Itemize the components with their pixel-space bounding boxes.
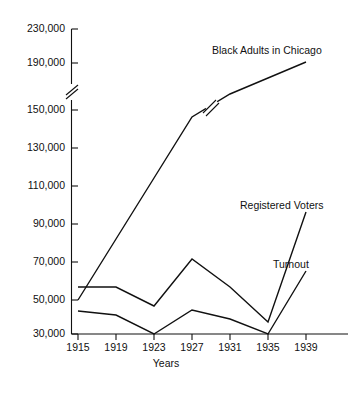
x-tick-label-1939: 1939 <box>294 341 318 353</box>
series-turnout: Turnout <box>78 258 309 334</box>
series-label-black-adults: Black Adults in Chicago <box>212 44 322 56</box>
y-tick-label-150000: 150,000 <box>27 103 65 115</box>
y-tick-label-230000: 230,000 <box>27 22 65 34</box>
x-tick-label-1915: 1915 <box>66 341 90 353</box>
y-tick-label-70000: 70,000 <box>33 255 65 267</box>
series-label-turnout: Turnout <box>273 258 309 270</box>
y-axis: 230,000 190,000 150,000 130,000 110,000 … <box>27 22 78 339</box>
x-tick-label-1923: 1923 <box>142 341 166 353</box>
x-tick-label-1931: 1931 <box>218 341 242 353</box>
x-axis-title: Years <box>153 357 179 369</box>
line-chart-canvas: 230,000 190,000 150,000 130,000 110,000 … <box>0 0 358 394</box>
x-tick-label-1919: 1919 <box>104 341 128 353</box>
y-tick-label-110000: 110,000 <box>28 179 65 191</box>
y-tick-label-90000: 90,000 <box>33 217 65 229</box>
x-axis: 1915 1919 1923 1927 1931 1935 1939 Years <box>66 334 348 369</box>
series-line-turnout <box>78 271 306 334</box>
y-tick-label-130000: 130,000 <box>27 141 65 153</box>
y-tick-label-50000: 50,000 <box>33 293 65 305</box>
series-line-black-adults <box>78 62 306 300</box>
chart-figure: 230,000 190,000 150,000 130,000 110,000 … <box>0 0 358 394</box>
series-line-break-mark-black-adults <box>201 94 221 116</box>
series-line-registered-voters <box>78 212 306 322</box>
x-tick-label-1927: 1927 <box>180 341 204 353</box>
y-tick-label-30000: 30,000 <box>33 327 65 339</box>
y-tick-label-190000: 190,000 <box>27 56 65 68</box>
x-tick-label-1935: 1935 <box>256 341 280 353</box>
y-axis-break-mark <box>66 84 78 100</box>
series-label-registered-voters: Registered Voters <box>240 199 323 211</box>
